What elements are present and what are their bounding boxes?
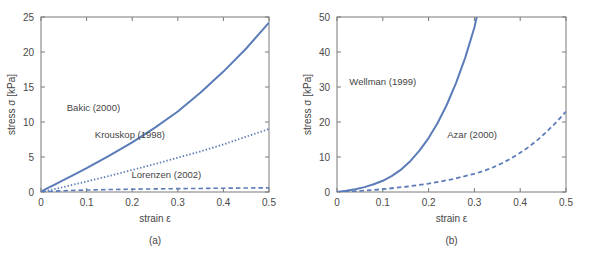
- figure-stress-strain-comparison: 00.10.20.30.40.50510152025Bakic (2000)Kr…: [0, 0, 592, 255]
- series-label-2: Azar (2000): [447, 129, 497, 140]
- y-tick-label: 50: [319, 12, 331, 23]
- x-tick-label: 0.2: [125, 197, 139, 208]
- x-tick-label: 0.4: [513, 197, 527, 208]
- x-axis-label: strain ε: [436, 213, 468, 224]
- series-curve-3: [41, 188, 269, 192]
- plot-area-b: 00.10.20.30.40.501020304050Wellman (1999…: [296, 0, 592, 255]
- y-tick-label: 10: [319, 152, 331, 163]
- series-curve-2: [337, 112, 566, 193]
- x-tick-label: 0: [38, 197, 44, 208]
- plot-area-a: 00.10.20.30.40.50510152025Bakic (2000)Kr…: [0, 0, 296, 255]
- y-tick-label: 30: [319, 82, 331, 93]
- y-tick-label: 0: [324, 187, 330, 198]
- x-tick-label: 0.4: [216, 197, 230, 208]
- x-tick-label: 0.1: [376, 197, 390, 208]
- x-tick-label: 0.3: [171, 197, 185, 208]
- panel-caption: (a): [149, 235, 161, 246]
- x-axis-label: strain ε: [139, 213, 171, 224]
- x-tick-label: 0.5: [262, 197, 276, 208]
- chart-panel-a: 00.10.20.30.40.50510152025Bakic (2000)Kr…: [0, 0, 296, 255]
- series-label-1: Bakic (2000): [67, 102, 120, 113]
- x-tick-label: 0.2: [422, 197, 436, 208]
- series-label-2: Krouskop (1998): [95, 129, 165, 140]
- x-tick-label: 0.3: [467, 197, 481, 208]
- y-tick-label: 5: [28, 152, 34, 163]
- y-tick-label: 10: [23, 117, 35, 128]
- y-axis-label: stress σ [kPa]: [302, 74, 313, 135]
- series-label-3: Lorenzen (2002): [132, 169, 202, 180]
- y-tick-label: 15: [23, 82, 35, 93]
- curves-group: [337, 17, 566, 192]
- panel-caption: (b): [445, 235, 457, 246]
- y-tick-label: 25: [23, 12, 35, 23]
- series-curve-1: [337, 17, 477, 192]
- y-tick-label: 40: [319, 47, 331, 58]
- x-tick-label: 0.5: [559, 197, 573, 208]
- x-tick-label: 0: [334, 197, 340, 208]
- y-axis-label: stress σ [kPa]: [6, 74, 17, 135]
- y-tick-label: 20: [23, 47, 35, 58]
- x-tick-label: 0.1: [80, 197, 94, 208]
- chart-panel-b: 00.10.20.30.40.501020304050Wellman (1999…: [296, 0, 592, 255]
- series-label-1: Wellman (1999): [349, 76, 416, 87]
- y-tick-label: 20: [319, 117, 331, 128]
- y-tick-label: 0: [28, 187, 34, 198]
- plot-box: [337, 17, 566, 192]
